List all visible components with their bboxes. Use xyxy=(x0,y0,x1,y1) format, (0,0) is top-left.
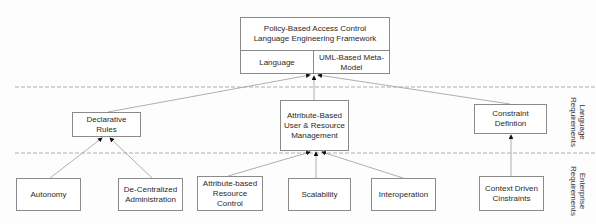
node-scalability: Scalability xyxy=(288,178,351,211)
framework-language-cell: Language xyxy=(241,51,314,74)
layer-label-language-requirements: Language Requirements xyxy=(567,97,587,147)
node-declarative-rules: Declarative Rules xyxy=(72,112,141,137)
node-autonomy: Autonomy xyxy=(16,178,81,211)
node-decentralized-administration: De-Centralized Administration xyxy=(118,178,183,211)
layer-label-enterprise-requirements: Enterprise Requirements xyxy=(567,166,587,216)
node-attribute-based-management: Attribute-Based User & Resource Manageme… xyxy=(280,100,349,151)
node-constraint-definition: Constraint Defintion xyxy=(474,104,547,134)
framework-metamodel-cell: UML-Based Meta- Model xyxy=(314,51,389,74)
framework-title: Policy-Based Access Control Language Eng… xyxy=(241,18,389,51)
node-attribute-based-resource-control: Attribute-based Resource Control xyxy=(197,176,263,211)
framework-box: Policy-Based Access Control Language Eng… xyxy=(240,17,390,74)
node-interoperation: Interoperation xyxy=(371,178,436,211)
requirements-diagram: Policy-Based Access Control Language Eng… xyxy=(0,0,596,224)
node-context-driven-constraints: Context Driven Cinstraints xyxy=(479,176,544,211)
